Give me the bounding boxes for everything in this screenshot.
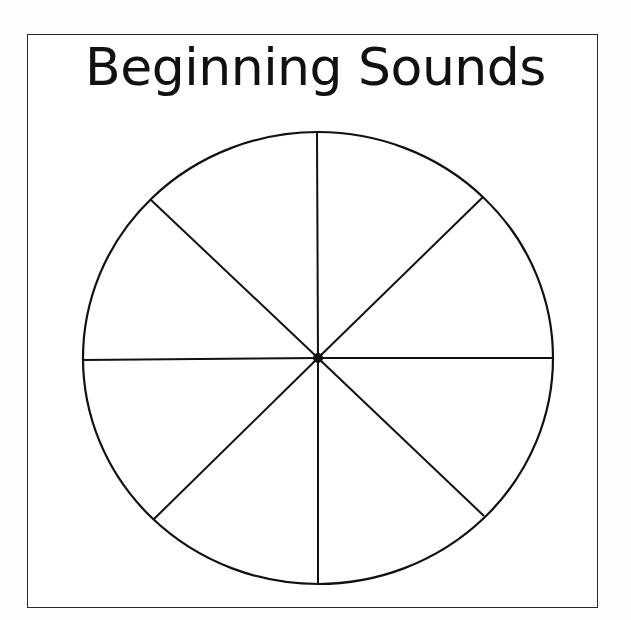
beginning-sounds-spinner — [0, 0, 631, 620]
spinner-center-dot — [313, 353, 323, 363]
